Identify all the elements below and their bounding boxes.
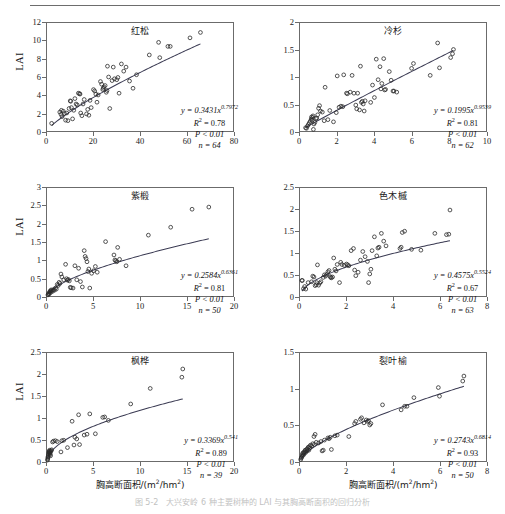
data-point	[334, 111, 338, 115]
y-tick-label: 12	[33, 17, 42, 27]
data-point	[64, 262, 68, 266]
data-point	[438, 66, 442, 70]
data-point	[448, 208, 452, 212]
r2-value: = 0.89	[206, 449, 227, 458]
data-point	[104, 240, 108, 244]
x-tick-label: 8	[485, 466, 489, 476]
x-tick-label: 0	[297, 466, 301, 476]
data-point	[118, 257, 122, 261]
x-tick-label: 8	[485, 301, 489, 311]
y-tick-label: 2.5	[30, 347, 41, 357]
x-tick-mark	[46, 462, 47, 466]
x-tick-label: 0	[44, 301, 48, 311]
data-point	[399, 408, 403, 412]
x-tick-mark	[440, 297, 441, 301]
y-tick-label: 0	[37, 457, 41, 467]
data-point	[378, 65, 382, 69]
data-point	[451, 52, 455, 56]
top-divider-rule	[30, 5, 500, 6]
data-point	[380, 82, 384, 86]
data-point	[381, 403, 385, 407]
x-tick-label: 5	[91, 466, 95, 476]
x-tick-mark	[440, 462, 441, 466]
data-point	[371, 83, 375, 87]
data-point	[428, 74, 432, 78]
y-tick-label: 4	[37, 90, 41, 100]
x-tick-mark	[140, 462, 141, 466]
data-point	[147, 53, 151, 57]
y-tick-mark	[42, 205, 46, 206]
data-point	[131, 86, 135, 90]
y-axis-label: LAI	[14, 207, 25, 247]
panel-fir: 冷杉 00.511.52 y = 0.1995x0.9539 R2 = 0.81…	[253, 8, 505, 168]
data-point	[332, 120, 336, 124]
equation-text: y = 0.4575x	[434, 270, 474, 279]
y-tick-label: 1	[290, 72, 294, 82]
data-point	[361, 250, 365, 254]
data-point	[72, 443, 76, 447]
data-point	[146, 233, 150, 237]
y-tick-mark	[42, 374, 46, 375]
data-point	[419, 248, 423, 252]
y-tick-mark	[42, 22, 46, 23]
data-point	[112, 253, 116, 257]
x-tick-label: 0	[297, 301, 301, 311]
data-point	[108, 107, 112, 111]
x-tick-label: 4	[391, 301, 395, 311]
y-tick-mark	[42, 418, 46, 419]
data-point	[312, 128, 316, 132]
y-tick-label: 2	[37, 109, 41, 119]
data-point	[89, 106, 93, 110]
data-point	[342, 73, 346, 77]
x-tick-mark	[46, 132, 47, 136]
data-point	[78, 443, 82, 447]
data-point	[449, 56, 453, 60]
data-point	[369, 101, 373, 105]
data-point	[433, 231, 437, 235]
y-tick-mark	[42, 77, 46, 78]
data-point	[181, 367, 185, 371]
x-tick-label: 10	[483, 136, 492, 146]
data-point	[350, 74, 354, 78]
y-tick-label: 0.5	[283, 420, 294, 430]
data-point	[330, 448, 334, 452]
y-tick-label: 2	[290, 17, 294, 27]
data-point	[328, 109, 332, 113]
x-tick-label: 5	[91, 301, 95, 311]
data-point	[352, 91, 356, 95]
y-tick-mark	[42, 279, 46, 280]
x-tick-label: 0	[44, 136, 48, 146]
y-tick-mark	[42, 260, 46, 261]
y-tick-label: 1.5	[30, 237, 41, 247]
data-point	[354, 274, 358, 278]
p-value: P < 0.01	[434, 460, 491, 471]
data-point	[59, 450, 63, 454]
x-tick-label: 6	[438, 466, 442, 476]
y-tick-mark	[295, 50, 299, 51]
equation-exponent: 0.7972	[221, 103, 238, 110]
panel-species-title: 裂叶榆	[299, 354, 487, 367]
data-point	[377, 245, 381, 249]
y-tick-mark	[295, 187, 299, 188]
y-tick-mark	[295, 77, 299, 78]
data-point	[116, 246, 120, 250]
x-tick-mark	[374, 132, 375, 136]
data-point	[117, 91, 121, 95]
data-point	[410, 66, 414, 70]
data-point	[412, 396, 416, 400]
data-point	[438, 394, 442, 398]
equation-text: y = 0.2743x	[434, 435, 474, 444]
data-point	[375, 254, 379, 258]
y-tick-label: 1	[290, 384, 294, 394]
y-tick-mark	[42, 396, 46, 397]
x-tick-label: 0	[297, 136, 301, 146]
panel-species-title: 枫桦	[46, 354, 234, 367]
x-tick-mark	[487, 297, 488, 301]
data-point	[128, 79, 132, 83]
y-tick-mark	[42, 114, 46, 115]
data-point	[79, 280, 83, 284]
y-tick-mark	[295, 22, 299, 23]
data-point	[82, 249, 86, 253]
data-point	[190, 207, 194, 211]
data-point	[436, 41, 440, 45]
